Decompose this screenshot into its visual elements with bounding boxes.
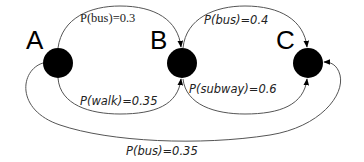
edge-label-b-c-bus: P(bus)=0.4 xyxy=(204,13,268,27)
node-a-label: A xyxy=(26,25,44,55)
node-c-label: C xyxy=(276,25,295,55)
node-b: B xyxy=(150,25,197,78)
edge-label-a-b-walk: P(walk)=0.35 xyxy=(80,94,157,108)
node-c: C xyxy=(276,25,323,78)
edge-label-a-c-bus: P(bus)=0.35 xyxy=(126,144,198,158)
node-a: A xyxy=(26,25,73,78)
edge-label-a-b-bus: P(bus)=0.3 xyxy=(80,11,135,25)
transition-diagram: A B C P(bus)=0.3 P(bus)=0.4 P(walk)=0.35… xyxy=(0,0,364,162)
node-b-label: B xyxy=(150,25,167,55)
edge-label-b-c-subway: P(subway)=0.6 xyxy=(189,82,277,96)
